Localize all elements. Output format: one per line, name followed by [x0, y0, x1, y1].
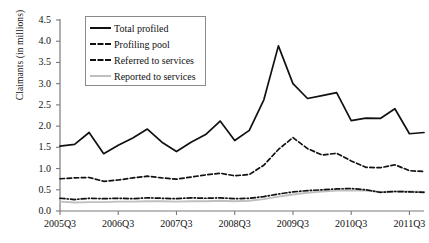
legend-swatch-solid-icon: [90, 23, 111, 33]
legend-swatch-gray-icon: [90, 71, 111, 81]
legend-label: Profiling pool: [114, 39, 170, 50]
series-line-profiling-pool: [60, 138, 424, 182]
line-chart: Claimants (in millions) 0.00.51.01.52.02…: [0, 0, 429, 243]
series-line-referred-to-services: [60, 189, 424, 200]
legend-label: Total profiled: [114, 23, 169, 34]
legend-item-total-profiled: Total profiled: [90, 20, 201, 36]
legend-item-referred-to-services: Referred to services: [90, 52, 201, 68]
legend-item-profiling-pool: Profiling pool: [90, 36, 201, 52]
series-line-reported-to-services: [60, 190, 424, 202]
legend-label: Referred to services: [114, 55, 194, 66]
legend-swatch-dashed-icon: [90, 39, 111, 49]
legend-label: Reported to services: [114, 71, 196, 82]
plot-area: [0, 0, 429, 243]
legend-swatch-dashdot-icon: [90, 55, 111, 65]
legend-item-reported-to-services: Reported to services: [90, 68, 201, 84]
chart-legend: Total profiled Profiling pool Referred t…: [85, 16, 206, 86]
